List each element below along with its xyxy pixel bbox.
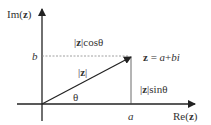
z-vector: [42, 57, 131, 104]
imaginary-axis-label: Im(z): [7, 8, 32, 21]
a-label: a: [128, 110, 134, 122]
theta-label: θ: [73, 91, 78, 103]
cos-label: |z|cosθ: [74, 36, 103, 48]
b-label: b: [32, 50, 38, 62]
real-axis-label: Re(z): [173, 110, 198, 123]
complex-plane-diagram: Im(z) |z|cosθ b z = a+bi |z| |z|sinθ θ a…: [0, 0, 211, 125]
point-label: z = a+bi: [143, 51, 180, 63]
modulus-label: |z|: [78, 66, 87, 78]
sin-label: |z|sinθ: [140, 83, 167, 95]
